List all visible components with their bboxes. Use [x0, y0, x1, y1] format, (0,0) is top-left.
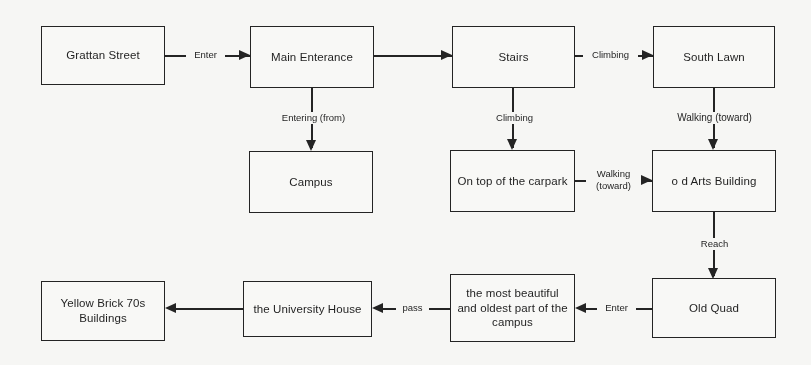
edge-label-climbing-vertical: Climbing	[486, 112, 543, 124]
node-old-arts-building[interactable]: o d Arts Building	[652, 150, 776, 212]
edge-label-enter-1: Enter	[186, 49, 225, 61]
node-university-house[interactable]: the University House	[243, 281, 372, 337]
node-south-lawn[interactable]: South Lawn	[653, 26, 775, 88]
edge-unihouse-to-yellow-arrow	[165, 303, 176, 313]
node-on-top-of-carpark[interactable]: On top of the carpark	[450, 150, 575, 212]
edge-unihouse-to-yellow-line	[176, 308, 243, 310]
node-stairs[interactable]: Stairs	[452, 26, 575, 88]
edge-label-entering-from: Entering (from)	[266, 112, 361, 124]
edge-oldquad-to-beautiful-arrow	[575, 303, 586, 313]
flowchart-canvas: Grattan Street Main Enterance Stairs Sou…	[0, 0, 811, 365]
edge-label-climbing-horizontal: Climbing	[583, 49, 638, 61]
edge-main-to-campus-arrow	[306, 140, 316, 151]
edge-southlawn-to-arts-arrow	[708, 139, 718, 150]
edge-label-pass: pass	[396, 302, 429, 314]
edge-label-walking-toward-horizontal: Walking (toward)	[586, 168, 641, 191]
node-yellow-brick-buildings[interactable]: Yellow Brick 70s Buildings	[41, 281, 165, 341]
edge-beautiful-to-unihouse-arrow	[372, 303, 383, 313]
node-old-quad[interactable]: Old Quad	[652, 278, 776, 338]
node-main-enterance[interactable]: Main Enterance	[250, 26, 374, 88]
edge-label-reach: Reach	[692, 238, 737, 250]
node-campus[interactable]: Campus	[249, 151, 373, 213]
edge-main-to-stairs-arrow	[441, 50, 452, 60]
edge-label-walking-toward-vertical: Walking (toward)	[661, 112, 768, 124]
node-most-beautiful-part[interactable]: the most beautiful and oldest part of th…	[450, 274, 575, 342]
edge-grattan-to-main-arrow	[239, 50, 250, 60]
edge-stairs-to-carpark-arrow	[507, 139, 517, 150]
edge-label-enter-2: Enter	[597, 302, 636, 314]
node-grattan-street[interactable]: Grattan Street	[41, 26, 165, 85]
edge-stairs-to-southlawn-arrow	[642, 50, 653, 60]
edge-carpark-to-arts-arrow	[641, 175, 652, 185]
